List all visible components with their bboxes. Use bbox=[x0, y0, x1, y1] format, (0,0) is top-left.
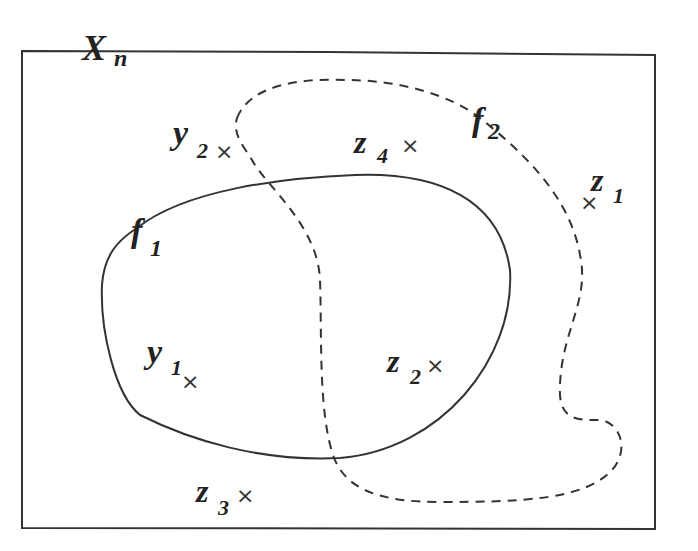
set-f1-subscript: 1 bbox=[150, 235, 162, 261]
set-diagram: X n f 1 f 2 y 2 × z 4 × × z 1 y 1 × z 2 … bbox=[0, 0, 698, 551]
point-y2-marker: × bbox=[215, 139, 233, 164]
space-label: X bbox=[81, 28, 107, 68]
point-z1-label: z bbox=[590, 162, 604, 198]
point-z2-label: z bbox=[386, 343, 400, 379]
space-label-subscript: n bbox=[114, 45, 127, 71]
set-f2-subscript: 2 bbox=[487, 118, 500, 144]
set-f1-boundary bbox=[102, 175, 510, 459]
point-z4-marker: × bbox=[401, 133, 419, 158]
point-z3-marker: × bbox=[236, 483, 254, 508]
point-z3-label: z bbox=[195, 473, 209, 509]
point-y2-subscript: 2 bbox=[196, 138, 208, 163]
point-z2-subscript: 2 bbox=[409, 364, 421, 389]
point-z4-subscript: 4 bbox=[376, 143, 388, 168]
point-y1-marker: × bbox=[181, 369, 199, 394]
point-z3-subscript: 3 bbox=[217, 495, 229, 520]
point-y1-label: y bbox=[143, 333, 163, 370]
point-y2-label: y bbox=[169, 114, 189, 151]
set-f2-label: f bbox=[472, 101, 487, 138]
point-z2-marker: × bbox=[426, 353, 444, 378]
set-f2-boundary bbox=[236, 80, 622, 502]
set-f1-label: f bbox=[131, 212, 146, 249]
point-z4-label: z bbox=[353, 124, 367, 160]
point-z1-subscript: 1 bbox=[613, 183, 624, 208]
